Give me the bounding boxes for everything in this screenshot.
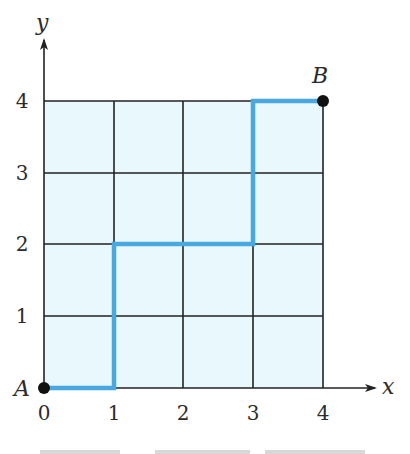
point-a xyxy=(38,382,50,394)
point-a-label: A xyxy=(12,376,30,401)
y-tick-4: 4 xyxy=(16,89,29,113)
y-axis-label: y xyxy=(35,10,49,35)
y-tick-2: 2 xyxy=(16,232,29,256)
y-tick-1: 1 xyxy=(16,304,29,328)
x-tick-4: 4 xyxy=(317,401,330,425)
caption-remnant xyxy=(40,450,365,454)
point-b-label: B xyxy=(311,63,328,88)
point-b xyxy=(317,95,329,107)
x-axis-label: x xyxy=(382,374,395,399)
lattice-path-diagram: y x A B 0 1 2 3 4 1 2 3 4 xyxy=(0,0,410,454)
x-tick-3: 3 xyxy=(247,401,260,425)
x-tick-0: 0 xyxy=(38,401,51,425)
y-tick-3: 3 xyxy=(16,161,29,185)
x-tick-1: 1 xyxy=(108,401,121,425)
x-tick-2: 2 xyxy=(177,401,190,425)
